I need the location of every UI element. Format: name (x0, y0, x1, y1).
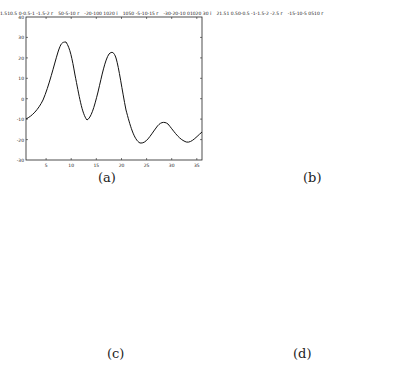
svg-text:-30: -30 (17, 158, 24, 163)
svg-text:-20: -20 (17, 138, 24, 143)
svg-text:30: 30 (18, 35, 24, 40)
panel-a-y-tick-labels: 403020 100-10 -20-30 (17, 15, 24, 163)
caption-b: (b) (303, 170, 321, 185)
figure-canvas: 403020 100-10 -20-30 51015 202530 35 (0, 0, 417, 373)
svg-text:10: 10 (18, 76, 24, 81)
panel-a-x-tick-labels: 51015 202530 35 (45, 163, 200, 168)
panel-a-signal-line (26, 42, 202, 143)
panel-a-chart: 403020 100-10 -20-30 51015 202530 35 (17, 15, 202, 168)
svg-text:10: 10 (68, 163, 74, 168)
svg-text:20: 20 (18, 56, 24, 61)
svg-text:0: 0 (21, 97, 24, 102)
panel-a-y-ticks (26, 37, 202, 139)
svg-text:25: 25 (144, 163, 150, 168)
svg-text:40: 40 (18, 15, 24, 20)
caption-d: (d) (293, 346, 311, 361)
svg-text:20: 20 (119, 163, 125, 168)
panel-a-x-ticks (46, 17, 197, 160)
svg-text:15: 15 (93, 163, 99, 168)
svg-text:35: 35 (194, 163, 200, 168)
svg-text:30: 30 (169, 163, 175, 168)
caption-a: (a) (98, 170, 116, 185)
svg-text:5: 5 (45, 163, 48, 168)
panel-a-frame (26, 17, 202, 160)
svg-text:-10: -10 (17, 117, 24, 122)
caption-c: (c) (107, 346, 124, 361)
